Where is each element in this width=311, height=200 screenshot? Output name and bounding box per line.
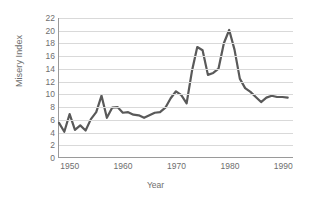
gridline (59, 31, 293, 32)
x-axis-tick-label: 1960 (114, 161, 133, 171)
y-axis-tick-label: 22 (46, 13, 55, 23)
x-axis-tick-label: 1970 (167, 161, 186, 171)
y-axis-tick-label: 10 (46, 89, 55, 99)
y-axis-tick-label: 2 (50, 140, 55, 150)
misery-index-line-chart: Misery Index 024681012141618202219501960… (0, 0, 311, 200)
gridline (59, 82, 293, 83)
gridline (59, 107, 293, 108)
gridline (59, 56, 293, 57)
gridline (59, 94, 293, 95)
y-axis-title: Misery Index (14, 11, 24, 111)
y-axis-tick-label: 6 (50, 115, 55, 125)
x-axis-tick-label: 1980 (220, 161, 239, 171)
y-axis-tick-label: 0 (50, 153, 55, 163)
x-axis-title: Year (0, 180, 311, 190)
gridline (59, 133, 293, 134)
y-axis-tick-label: 16 (46, 51, 55, 61)
gridline (59, 145, 293, 146)
gridline (59, 43, 293, 44)
gridline (59, 18, 293, 19)
y-axis-tick-label: 20 (46, 26, 55, 36)
series-line-misery-index (59, 18, 293, 157)
plot-area: 024681012141618202219501960197019801990 (58, 18, 293, 158)
gridline (59, 69, 293, 70)
y-axis-tick-label: 14 (46, 64, 55, 74)
x-axis-tick-label: 1950 (60, 161, 79, 171)
x-axis-tick-label: 1990 (274, 161, 293, 171)
y-axis-tick-label: 8 (50, 102, 55, 112)
y-axis-tick-label: 12 (46, 77, 55, 87)
y-axis-tick-label: 18 (46, 38, 55, 48)
gridline (59, 120, 293, 121)
y-axis-tick-label: 4 (50, 128, 55, 138)
